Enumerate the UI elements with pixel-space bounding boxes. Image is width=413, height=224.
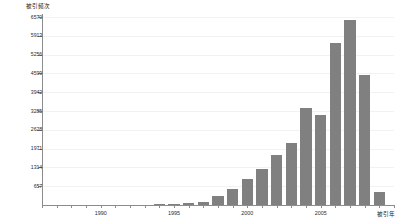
bar bbox=[212, 196, 223, 205]
x-tick-mark bbox=[394, 205, 395, 208]
y-tick-label: 5913 bbox=[20, 33, 42, 38]
gridline bbox=[42, 167, 394, 168]
x-tick-mark bbox=[86, 205, 87, 208]
bar bbox=[344, 20, 355, 205]
x-tick-mark bbox=[350, 205, 351, 208]
x-tick-mark bbox=[306, 205, 307, 208]
x-tick-mark bbox=[247, 205, 248, 208]
x-tick-mark bbox=[57, 205, 58, 208]
y-tick-label: 6570 bbox=[20, 15, 42, 20]
gridline bbox=[42, 36, 394, 37]
x-tick-mark bbox=[189, 205, 190, 208]
y-tick-label: 3942 bbox=[20, 90, 42, 95]
x-tick-mark bbox=[71, 205, 72, 208]
y-axis-line bbox=[42, 14, 43, 206]
bar bbox=[300, 108, 311, 205]
x-tick-mark bbox=[335, 205, 336, 208]
bar bbox=[330, 43, 341, 205]
gridline bbox=[42, 73, 394, 74]
x-tick-label: 1990 bbox=[84, 211, 118, 216]
x-tick-mark bbox=[130, 205, 131, 208]
bar bbox=[315, 115, 326, 205]
y-tick-label: 2628 bbox=[20, 127, 42, 132]
y-tick-label: 3285 bbox=[20, 109, 42, 114]
bar bbox=[271, 155, 282, 205]
gridline bbox=[42, 186, 394, 187]
x-tick-mark bbox=[115, 205, 116, 208]
x-tick-mark bbox=[233, 205, 234, 208]
x-tick-mark bbox=[203, 205, 204, 208]
bar bbox=[242, 179, 253, 205]
x-tick-mark bbox=[42, 205, 43, 208]
gridline bbox=[42, 130, 394, 131]
y-tick-label: 657 bbox=[20, 184, 42, 189]
x-tick-mark bbox=[379, 205, 380, 208]
x-tick-mark bbox=[365, 205, 366, 208]
citation-bar-chart: 被引频次 被引年 6571314197126283285394245995256… bbox=[0, 0, 413, 224]
x-tick-label: 1995 bbox=[157, 211, 191, 216]
x-tick-label: 2000 bbox=[230, 211, 264, 216]
gridline bbox=[42, 55, 394, 56]
x-tick-mark bbox=[321, 205, 322, 208]
bar bbox=[359, 75, 370, 205]
x-tick-mark bbox=[159, 205, 160, 208]
x-tick-mark bbox=[277, 205, 278, 208]
y-tick-label: 5256 bbox=[20, 52, 42, 57]
y-tick-label: 1971 bbox=[20, 146, 42, 151]
plot-area bbox=[42, 17, 394, 205]
gridline bbox=[42, 149, 394, 150]
bar bbox=[256, 169, 267, 205]
x-tick-mark bbox=[291, 205, 292, 208]
y-axis-title: 被引频次 bbox=[26, 3, 50, 9]
bar bbox=[286, 143, 297, 205]
gridline bbox=[42, 17, 394, 18]
x-tick-mark bbox=[174, 205, 175, 208]
x-tick-mark bbox=[262, 205, 263, 208]
x-tick-mark bbox=[218, 205, 219, 208]
x-tick-mark bbox=[145, 205, 146, 208]
gridline bbox=[42, 92, 394, 93]
gridline bbox=[42, 111, 394, 112]
x-tick-label: 2005 bbox=[304, 211, 338, 216]
bar bbox=[374, 192, 385, 205]
y-tick-label: 1314 bbox=[20, 165, 42, 170]
x-axis-title: 被引年 bbox=[377, 211, 395, 217]
y-tick-label: 4599 bbox=[20, 71, 42, 76]
x-tick-mark bbox=[101, 205, 102, 208]
bar bbox=[227, 189, 238, 205]
